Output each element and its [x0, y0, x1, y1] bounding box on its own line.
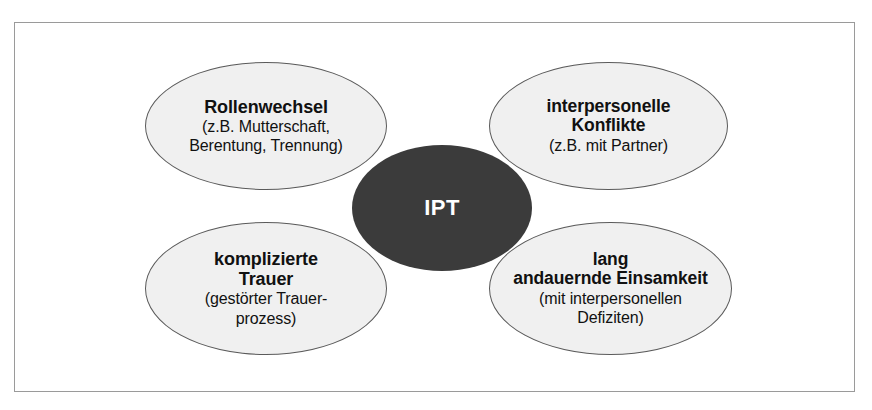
node-konflikte-title-line-2: Konflikte: [572, 116, 646, 136]
node-einsamkeit-title-line-1: lang: [593, 250, 629, 270]
node-rollenwechsel: Rollenwechsel (z.B. Mutterschaft, Berent…: [145, 62, 387, 190]
center-node-ipt: IPT: [352, 145, 532, 271]
node-komplizierte-trauer: komplizierte Trauer (gestörter Trauer- p…: [145, 222, 387, 355]
node-rollenwechsel-title: Rollenwechsel: [204, 97, 328, 117]
node-einsamkeit-sub-line-2: Defiziten): [577, 309, 644, 327]
node-trauer-title-line-1: komplizierte: [214, 249, 318, 269]
node-lang-andauernde-einsamkeit: lang andauernde Einsamkeit (mit interper…: [489, 222, 732, 355]
node-konflikte-title-line-1: interpersonelle: [547, 97, 671, 117]
center-node-label: IPT: [424, 197, 460, 219]
node-trauer-title-line-2: Trauer: [239, 269, 293, 289]
diagram-canvas: IPT Rollenwechsel (z.B. Mutterschaft, Be…: [0, 0, 872, 410]
node-einsamkeit-title-line-2: andauernde Einsamkeit: [513, 269, 707, 289]
node-einsamkeit-sub-line-1: (mit interpersonellen: [539, 290, 682, 308]
node-rollenwechsel-sub-line-1: (z.B. Mutterschaft,: [202, 118, 330, 136]
node-trauer-sub-line-1: (gestörter Trauer-: [205, 290, 328, 308]
node-konflikte-sub-line-1: (z.B. mit Partner): [549, 137, 668, 155]
node-interpersonelle-konflikte: interpersonelle Konflikte (z.B. mit Part…: [489, 62, 728, 190]
node-rollenwechsel-sub-line-2: Berentung, Trennung): [189, 137, 343, 155]
node-trauer-sub-line-2: prozess): [236, 310, 297, 328]
